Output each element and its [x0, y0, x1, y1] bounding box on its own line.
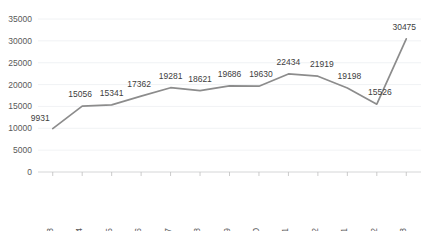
y-axis-tick-label: 35000 [8, 14, 32, 24]
x-axis-tick-label: 2021.02 [369, 228, 379, 231]
data-series-line [53, 39, 407, 129]
data-point-label: 19686 [218, 69, 242, 79]
y-axis-tick-label: 15000 [8, 101, 32, 111]
data-point-label: 21919 [310, 59, 334, 69]
x-axis-tick-label: 2020.05 [104, 228, 114, 231]
data-point-label: 9931 [31, 113, 50, 123]
x-axis-tick-label: 2020.03 [45, 228, 55, 231]
x-axis-tick-label: 2020.12 [310, 228, 320, 231]
y-axis-tick-label: 25000 [8, 58, 32, 68]
data-point-label: 19630 [249, 69, 273, 79]
data-point-labels: 9931150561534117362192811862119686196302… [31, 22, 417, 123]
series-polyline [53, 39, 407, 129]
data-point-label: 18621 [188, 74, 212, 84]
x-axis-tick-label: 2020.07 [163, 228, 173, 231]
x-axis-tick-label: 2021.03 [398, 228, 408, 231]
data-point-label: 15341 [100, 88, 124, 98]
y-axis-tick-label: 20000 [8, 80, 32, 90]
x-axis-tick-label: 2020.08 [192, 228, 202, 231]
y-axis-tick-label: 0 [27, 167, 32, 177]
chart-canvas: 05000100001500020000250003000035000 2020… [0, 0, 434, 231]
data-point-label: 15056 [68, 89, 92, 99]
data-point-label: 22434 [277, 57, 301, 67]
x-axis-tick-label: 2020.11 [280, 228, 290, 231]
data-point-label: 15526 [368, 87, 392, 97]
x-axis-tick-label: 2020.10 [251, 228, 261, 231]
x-axis-tick-label: 2020.04 [74, 228, 84, 231]
x-axis-tick-label: 2021.01 [339, 228, 349, 231]
x-axis-tick-marks [53, 172, 407, 176]
x-axis-tick-label: 2020.06 [133, 228, 143, 231]
data-point-label: 19198 [338, 71, 362, 81]
y-axis-tick-label: 30000 [8, 36, 32, 46]
line-chart: 05000100001500020000250003000035000 2020… [0, 0, 434, 231]
data-point-label: 30475 [392, 22, 416, 32]
x-axis-tick-labels: 2020.032020.042020.052020.062020.072020.… [45, 228, 409, 231]
y-axis-tick-labels: 05000100001500020000250003000035000 [8, 14, 32, 177]
x-axis-tick-label: 2020.09 [222, 228, 232, 231]
y-axis-tick-label: 10000 [8, 123, 32, 133]
data-point-label: 19281 [159, 71, 183, 81]
y-axis-tick-label: 5000 [13, 145, 32, 155]
gridlines [38, 19, 421, 172]
data-point-label: 17362 [127, 79, 151, 89]
